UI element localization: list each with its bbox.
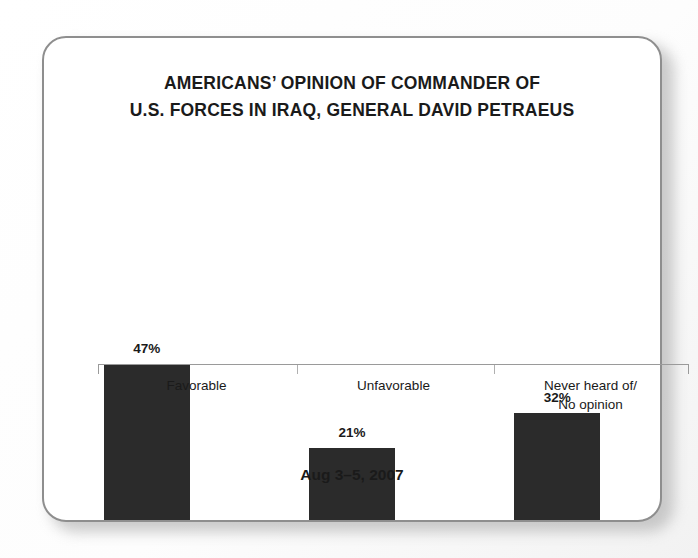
x-axis-line <box>98 364 689 365</box>
axis-tick-left-end <box>98 365 99 374</box>
axis-tick-right-end <box>688 365 689 374</box>
category-label-favorable: Favorable <box>98 376 295 414</box>
bar-value-unfavorable: 21% <box>338 425 365 440</box>
category-label-never-heard-of: Never heard of/ No opinion <box>492 376 689 414</box>
axis-tick-divider-2 <box>494 365 495 374</box>
category-label-never-heard-of-line-2: No opinion <box>492 395 689 414</box>
category-label-unfavorable-line-1: Unfavorable <box>295 376 492 395</box>
category-label-favorable-line-1: Favorable <box>98 376 295 395</box>
survey-date-note: Aug 3–5, 2007 <box>44 466 660 484</box>
category-label-never-heard-of-line-1: Never heard of/ <box>492 376 689 395</box>
axis-tick-divider-1 <box>297 365 298 374</box>
plot-area: 47% 21% 32% Favorable Unfavorable <box>44 38 660 520</box>
chart-card: AMERICANS’ OPINION OF COMMANDER OF U.S. … <box>42 36 662 522</box>
category-axis-labels: Favorable Unfavorable Never heard of/ No… <box>98 376 689 414</box>
category-label-unfavorable: Unfavorable <box>295 376 492 414</box>
bar-unfavorable: 21% <box>309 448 395 520</box>
bar-value-favorable: 47% <box>133 341 160 356</box>
